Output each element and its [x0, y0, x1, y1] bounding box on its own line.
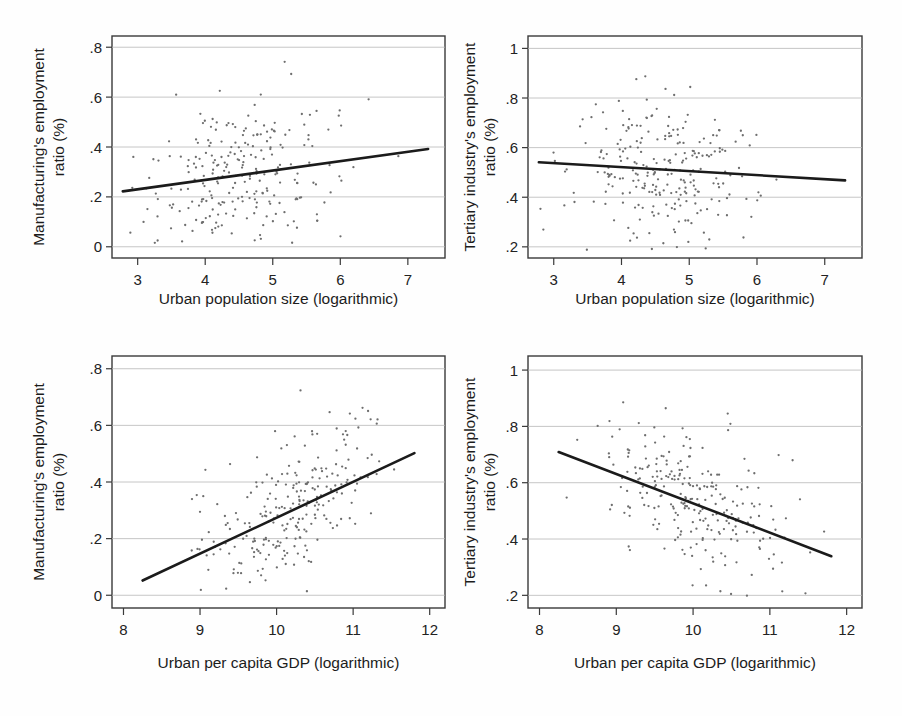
data-point	[215, 222, 217, 224]
data-point	[619, 178, 621, 180]
data-point	[668, 116, 670, 118]
data-point	[657, 178, 659, 180]
data-point	[303, 124, 305, 126]
data-point	[342, 433, 344, 435]
data-point	[624, 147, 626, 149]
data-point	[316, 213, 318, 215]
data-point	[799, 498, 801, 500]
data-point	[673, 478, 675, 480]
data-point	[640, 151, 642, 153]
data-point	[695, 543, 697, 545]
plot-frame	[528, 356, 862, 608]
data-point	[684, 181, 686, 183]
data-point	[684, 152, 686, 154]
data-point	[646, 175, 648, 177]
data-point	[667, 215, 669, 217]
data-point	[268, 200, 270, 202]
data-point	[267, 498, 269, 500]
data-point	[337, 474, 339, 476]
data-point	[622, 192, 624, 194]
data-point	[622, 124, 624, 126]
data-point	[221, 224, 223, 226]
data-point	[732, 529, 734, 531]
data-point	[334, 484, 336, 486]
data-point	[746, 531, 748, 533]
data-point	[680, 530, 682, 532]
data-point	[266, 215, 268, 217]
data-point	[311, 476, 313, 478]
data-point	[261, 192, 263, 194]
data-point	[656, 470, 658, 472]
data-point	[692, 521, 694, 523]
data-point	[701, 447, 703, 449]
data-point	[625, 130, 627, 132]
data-point	[654, 189, 656, 191]
data-point	[327, 128, 329, 130]
data-point	[281, 473, 283, 475]
data-point	[298, 499, 300, 501]
data-point	[652, 524, 654, 526]
data-point	[266, 130, 268, 132]
data-point	[172, 203, 174, 205]
data-point	[314, 467, 316, 469]
y-tick-label: .2	[89, 530, 102, 547]
data-point	[284, 554, 286, 556]
data-point	[666, 463, 668, 465]
data-point	[228, 192, 230, 194]
data-point	[234, 142, 236, 144]
data-point	[708, 155, 710, 157]
data-point	[286, 444, 288, 446]
data-point	[682, 445, 684, 447]
data-point	[760, 195, 762, 197]
data-point	[742, 502, 744, 504]
data-point	[308, 162, 310, 164]
data-point	[721, 149, 723, 151]
x-tick-label: 5	[269, 271, 277, 288]
data-point	[707, 524, 709, 526]
data-point	[306, 549, 308, 551]
data-point	[757, 487, 759, 489]
x-tick-label: 8	[535, 621, 543, 638]
data-point	[285, 563, 287, 565]
data-point	[266, 190, 268, 192]
data-point	[253, 556, 255, 558]
data-point	[157, 159, 159, 161]
data-point	[663, 485, 665, 487]
data-point	[242, 134, 244, 136]
data-point	[260, 93, 262, 95]
data-point	[659, 194, 661, 196]
data-point	[686, 466, 688, 468]
panel-top-left-plot: 0.2.4.6.834567Urban population size (log…	[0, 8, 451, 328]
data-point	[253, 193, 255, 195]
data-point	[673, 519, 675, 521]
data-point	[269, 492, 271, 494]
data-point	[612, 464, 614, 466]
data-point	[257, 570, 259, 572]
data-point	[322, 504, 324, 506]
data-point	[181, 240, 183, 242]
data-point	[298, 481, 300, 483]
data-point	[251, 547, 253, 549]
data-point	[325, 467, 327, 469]
x-tick-label: 10	[268, 621, 285, 638]
data-point	[191, 201, 193, 203]
data-point	[753, 472, 755, 474]
data-point	[254, 156, 256, 158]
data-point	[244, 142, 246, 144]
data-point	[644, 182, 646, 184]
data-point	[704, 517, 706, 519]
data-point	[749, 144, 751, 146]
data-point	[298, 503, 300, 505]
data-point	[777, 454, 779, 456]
data-point	[245, 127, 247, 129]
data-point	[720, 552, 722, 554]
data-point	[211, 154, 213, 156]
data-point	[207, 139, 209, 141]
data-point	[619, 139, 621, 141]
data-point	[199, 113, 201, 115]
data-point	[651, 114, 653, 116]
data-point	[238, 146, 240, 148]
data-point	[227, 122, 229, 124]
data-point	[785, 517, 787, 519]
data-point	[622, 401, 624, 403]
